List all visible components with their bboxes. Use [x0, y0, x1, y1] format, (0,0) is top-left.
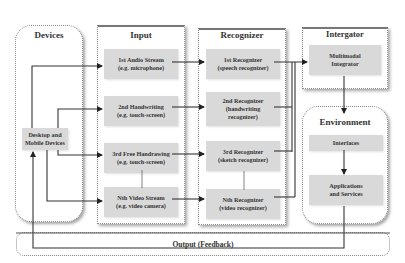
desktop-mobile-devices-node: Desktop and Mobile Devices — [22, 128, 68, 150]
environment-panel-title: Environment — [302, 117, 388, 127]
output-feedback-label: Output (Feedback) — [17, 240, 389, 249]
recognizer-panel-title: Recognizer — [198, 30, 286, 40]
output-feedback-bar: Output (Feedback) — [16, 232, 390, 256]
recognizer-node-sketch: 3rd Recognizer (sketch recognizer) — [206, 141, 280, 171]
node-line: 3rd Recognizer — [223, 148, 263, 156]
node-line: Mobile Devices — [25, 139, 65, 147]
node-line: 2nd Recognizer — [222, 97, 263, 105]
node-line: Nth Recognizer — [222, 196, 263, 204]
input-panel-title: Input — [97, 30, 185, 40]
recognizer-node-speech: 1st Recognizer (speech recognizer) — [206, 49, 280, 79]
node-line: (e.g. microphone) — [118, 64, 164, 72]
node-line: recognizer) — [228, 113, 258, 121]
input-node-handwriting: 2nd Handwriting (e.g. touch-screen) — [104, 96, 178, 126]
node-line: 1st Audio Stream — [118, 56, 164, 64]
node-line: 3rd Free Handrawing — [112, 150, 170, 158]
node-line: (speech recognizer) — [218, 64, 269, 72]
node-line: and Services — [329, 190, 362, 198]
input-node-audio-stream: 1st Audio Stream (e.g. microphone) — [104, 49, 178, 79]
applications-services-node: Applications and Services — [309, 175, 383, 205]
node-line: (handwriting — [226, 105, 261, 113]
node-line: 2nd Handwriting — [118, 103, 164, 111]
node-line: Interfaces — [333, 139, 359, 147]
devices-group — [15, 25, 83, 222]
recognizer-node-video: Nth Recognizer (video recognizer) — [206, 189, 280, 219]
node-line: Integrator — [331, 60, 359, 68]
node-line: Multimodal — [329, 52, 360, 60]
recognizer-node-handwriting: 2nd Recognizer (handwriting recognizer) — [206, 92, 280, 126]
node-line: (e.g. video camera) — [116, 202, 166, 210]
devices-panel-title: Devices — [15, 30, 83, 40]
interfaces-node: Interfaces — [309, 135, 383, 151]
node-line: Nth Video Stream — [117, 194, 164, 202]
input-node-video-stream: Nth Video Stream (e.g. video camera) — [104, 187, 178, 217]
node-line: Desktop and — [28, 131, 61, 139]
node-line: (e.g. touch-screen) — [117, 111, 165, 119]
node-line: (sketch recognizer) — [218, 156, 268, 164]
node-line: (video recognizer) — [219, 204, 266, 212]
node-line: 1st Recognizer — [224, 56, 263, 64]
integrator-panel-title: Intergator — [302, 29, 388, 39]
node-line: (e.g. touch-screen) — [117, 158, 165, 166]
node-line: Applications — [329, 182, 362, 190]
multimodal-integrator-node: Multimodal Integrator — [309, 45, 381, 75]
input-node-free-handrawing: 3rd Free Handrawing (e.g. touch-screen) — [104, 143, 178, 173]
